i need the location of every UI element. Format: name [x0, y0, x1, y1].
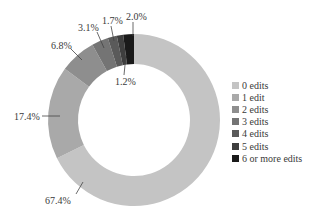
legend-label: 2 edits — [242, 104, 268, 115]
legend-item-2-edits: 2 edits — [232, 103, 302, 115]
legend-swatch-icon — [232, 143, 239, 150]
legend-item-3-edits: 3 edits — [232, 116, 302, 128]
label-4-edits: 1.7% — [102, 15, 123, 26]
legend-label: 6 or more edits — [242, 153, 302, 164]
legend-label: 0 edits — [242, 80, 268, 91]
label-5-edits: 1.2% — [115, 76, 136, 87]
legend-item-1-edit: 1 edit — [232, 91, 302, 103]
slice-1-edit — [48, 69, 89, 158]
label-3-edits: 3.1% — [78, 22, 99, 33]
legend-item-0-edits: 0 edits — [232, 79, 302, 91]
legend-item-4-edits: 4 edits — [232, 128, 302, 140]
label-1-edit: 17.4% — [14, 111, 40, 122]
label-0-edits: 67.4% — [45, 195, 71, 206]
legend-swatch-icon — [232, 94, 239, 101]
legend-swatch-icon — [232, 130, 239, 137]
legend-item-5-edits: 5 edits — [232, 140, 302, 152]
legend-label: 1 edit — [242, 92, 265, 103]
legend-swatch-icon — [232, 155, 239, 162]
label-2-edits: 6.8% — [51, 40, 72, 51]
legend-swatch-icon — [232, 106, 239, 113]
legend-swatch-icon — [232, 118, 239, 125]
legend-item-6-or-more-edits: 6 or more edits — [232, 152, 302, 164]
legend-label: 5 edits — [242, 141, 268, 152]
legend: 0 edits 1 edit 2 edits 3 edits 4 edits 5… — [232, 79, 302, 164]
label-6-or-more-edits: 2.0% — [126, 11, 147, 22]
donut-slices — [48, 34, 220, 206]
legend-swatch-icon — [232, 82, 239, 89]
legend-label: 3 edits — [242, 116, 268, 127]
legend-label: 4 edits — [242, 128, 268, 139]
